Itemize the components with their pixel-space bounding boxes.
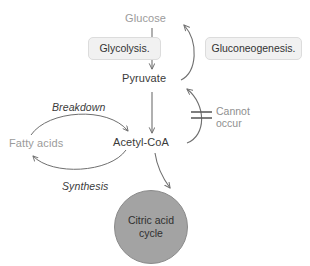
arrow-fatty-acids-to-acetyl-coa	[31, 114, 128, 135]
pathway-box-glycolysis[interactable]: Glycolysis.	[88, 37, 161, 60]
arrow-acetyl-coa-to-citric-acid-cycle	[155, 153, 170, 188]
node-label-pyruvate: Pyruvate	[122, 72, 166, 85]
node-label-acetyl-coa: Acetyl-CoA	[113, 136, 169, 149]
annotation-cannot-occur: Cannot occur	[216, 105, 268, 129]
citric-acid-cycle-label-line2: cycle	[139, 227, 163, 240]
arrow-acetyl-coa-to-pyruvate-blocked	[187, 89, 202, 143]
node-label-glucose: Glucose	[125, 12, 166, 25]
annotation-cannot-occur-line2: occur	[216, 117, 268, 129]
citric-acid-cycle-label-line1: Citric acid	[128, 214, 174, 227]
annotation-synthesis: Synthesis	[62, 180, 108, 193]
arrow-pyruvate-to-glucose	[181, 25, 194, 80]
node-label-fatty-acids: Fatty acids	[9, 137, 63, 150]
arrow-acetyl-coa-to-fatty-acids	[33, 150, 126, 169]
annotation-breakdown: Breakdown	[52, 101, 105, 114]
pathway-box-gluconeogenesis[interactable]: Gluconeogenesis.	[205, 37, 302, 60]
pathway-box-gluconeogenesis-label: Gluconeogenesis.	[211, 43, 295, 54]
annotation-cannot-occur-line1: Cannot	[216, 105, 268, 117]
pathway-box-glycolysis-label: Glycolysis.	[99, 43, 149, 54]
metabolic-pathway-diagram: Glucose Pyruvate Acetyl-CoA Fatty acids …	[0, 0, 310, 266]
citric-acid-cycle-node[interactable]: Citric acid cycle	[114, 190, 188, 264]
